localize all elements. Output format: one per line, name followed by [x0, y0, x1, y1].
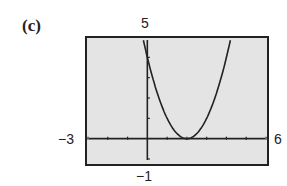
calculator-graph — [0, 0, 287, 186]
graph-screen — [86, 37, 268, 165]
